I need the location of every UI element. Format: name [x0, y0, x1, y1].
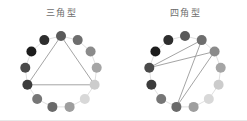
- ring-node: [92, 63, 102, 73]
- panel-triangle: 三角型: [0, 0, 123, 121]
- ring-node: [22, 80, 32, 90]
- panel-title-quadrilateral: 四角型: [124, 8, 247, 19]
- ring-node: [171, 102, 181, 112]
- panel-quadrilateral: 四角型: [124, 0, 247, 121]
- panel-title-triangle: 三角型: [0, 8, 123, 19]
- ring-node: [90, 80, 100, 90]
- ring-node: [146, 80, 156, 90]
- ring-node: [73, 35, 83, 45]
- ring-node: [214, 80, 224, 90]
- ring-node: [156, 94, 166, 104]
- ring-node: [32, 94, 42, 104]
- ring-node: [65, 102, 75, 112]
- ring-node: [210, 47, 220, 57]
- ring-node: [26, 47, 36, 57]
- ring-diagram-quadrilateral: [124, 22, 247, 121]
- triangle-ring-svg: [0, 22, 123, 121]
- ring-node: [189, 102, 199, 112]
- ring-node: [39, 35, 49, 45]
- inscribed-polygon-triangle: [27, 36, 94, 85]
- ring-diagram-triangle: [0, 22, 123, 121]
- ring-node: [47, 102, 57, 112]
- ring-node: [150, 47, 160, 57]
- ring-node: [80, 94, 90, 104]
- ring-node: [216, 63, 226, 73]
- ring-node: [163, 35, 173, 45]
- ring-node: [204, 94, 214, 104]
- ring-node: [144, 63, 154, 73]
- ring-node: [197, 35, 207, 45]
- ring-node: [86, 47, 96, 57]
- quadrilateral-ring-svg: [124, 22, 247, 121]
- figure-canvas: 三角型 四角型: [0, 0, 247, 121]
- ring-node: [20, 63, 30, 73]
- ring-node: [180, 31, 190, 41]
- figure-bottom-rule: [0, 120, 247, 121]
- ring-node: [56, 31, 66, 41]
